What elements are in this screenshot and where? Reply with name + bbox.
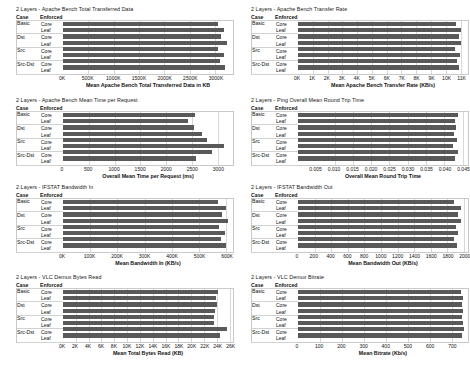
bar xyxy=(298,296,463,300)
table-header: CaseEnforced xyxy=(251,282,469,288)
bar xyxy=(298,315,462,319)
axis-tick-label: 0 xyxy=(61,166,64,172)
axis-tick-label: 2500 xyxy=(187,166,198,172)
case-label: Src-Dst xyxy=(252,152,276,164)
enforced-labels: CoreLeaf xyxy=(41,302,63,314)
bar xyxy=(298,302,462,306)
axis-tick-label: 600K xyxy=(221,253,233,259)
category-group: BasicCoreLeaf xyxy=(17,20,63,34)
enforced-labels: CoreLeaf xyxy=(41,226,63,238)
enforced-label: Leaf xyxy=(41,205,63,211)
bars-plot xyxy=(298,20,469,75)
value-axis-ticks: 0K100K200K300K400K500K600K xyxy=(62,253,234,261)
bar xyxy=(63,237,221,241)
header-case: Case xyxy=(251,105,275,111)
bar xyxy=(298,156,455,160)
case-label: Dst xyxy=(252,125,276,137)
table-header: CaseEnforced xyxy=(16,282,234,288)
case-label: Src xyxy=(17,226,41,238)
enforced-label: Leaf xyxy=(276,232,298,238)
value-axis-ticks: 0K500K1000K1500K2000K2500K3000K xyxy=(62,75,234,83)
bar xyxy=(298,309,463,313)
axis-tick-label: 10K xyxy=(122,343,131,349)
enforced-labels: CoreLeaf xyxy=(276,139,298,151)
case-label: Src-Dst xyxy=(17,61,41,73)
plot-area: BasicCoreLeafDstCoreLeafSrcCoreLeafSrc-D… xyxy=(251,20,469,75)
enforced-labels: CoreLeaf xyxy=(41,125,63,137)
enforced-labels: CoreLeaf xyxy=(41,212,63,224)
axis-tick-label: 2500K xyxy=(183,75,197,81)
category-group: SrcCoreLeaf xyxy=(17,48,63,61)
enforced-labels: CoreLeaf xyxy=(276,226,298,238)
plot-area: BasicCoreLeafDstCoreLeafSrcCoreLeafSrc-D… xyxy=(16,198,234,253)
bar xyxy=(298,132,454,136)
enforced-label: Leaf xyxy=(276,219,298,225)
value-axis-ticks: 0200400600800100012001400160018002000 xyxy=(297,253,469,261)
axis-tick-label: 1000 xyxy=(375,253,386,259)
header-case: Case xyxy=(16,14,40,20)
category-axis: BasicCoreLeafDstCoreLeafSrcCoreLeafSrc-D… xyxy=(17,111,63,166)
plot-area: BasicCoreLeafDstCoreLeafSrcCoreLeafSrc-D… xyxy=(251,198,469,253)
bar xyxy=(63,243,226,247)
enforced-label: Leaf xyxy=(41,245,63,251)
case-label: Dst xyxy=(252,302,276,314)
case-label: Src xyxy=(252,316,276,328)
enforced-labels: CoreLeaf xyxy=(276,48,298,60)
bar-series xyxy=(298,199,468,249)
enforced-label: Leaf xyxy=(41,232,63,238)
plot-area: BasicCoreLeafDstCoreLeafSrcCoreLeafSrc-D… xyxy=(16,20,234,75)
axis-tick-label: 0.015 xyxy=(346,166,359,172)
enforced-labels: CoreLeaf xyxy=(276,212,298,224)
category-group: SrcCoreLeaf xyxy=(17,226,63,239)
axis-tick-label: 0.020 xyxy=(365,166,378,172)
plot-area: BasicCoreLeafDstCoreLeafSrcCoreLeafSrc-D… xyxy=(251,288,469,343)
axis-tick-label: 500 xyxy=(404,343,412,349)
axis-tick-label: 1600 xyxy=(426,253,437,259)
category-group: Src-DstCoreLeaf xyxy=(252,329,298,342)
enforced-labels: CoreLeaf xyxy=(41,152,63,164)
bar xyxy=(63,138,207,142)
axis-tick-label: 6K xyxy=(384,75,390,81)
enforced-labels: CoreLeaf xyxy=(41,112,63,124)
axis-tick-label: 26K xyxy=(226,343,235,349)
case-label: Src-Dst xyxy=(252,61,276,73)
case-label: Src xyxy=(17,48,41,60)
enforced-label: Leaf xyxy=(276,335,298,341)
bars-plot xyxy=(298,111,469,166)
category-axis: BasicCoreLeafDstCoreLeafSrcCoreLeafSrc-D… xyxy=(252,111,298,166)
header-enforced: Enforced xyxy=(275,105,297,111)
case-label: Src xyxy=(17,139,41,151)
axis-tick-label: 16K xyxy=(161,343,170,349)
bar xyxy=(298,243,457,247)
category-group: DstCoreLeaf xyxy=(252,212,298,225)
case-label: Dst xyxy=(252,34,276,46)
enforced-labels: CoreLeaf xyxy=(41,329,63,341)
case-label: Src-Dst xyxy=(17,329,41,341)
header-case: Case xyxy=(16,105,40,111)
case-label: Basic xyxy=(252,112,276,124)
axis-tick-label: 2000 xyxy=(161,166,172,172)
axis-tick-label: 12K xyxy=(135,343,144,349)
bar xyxy=(298,113,458,117)
table-header: CaseEnforced xyxy=(16,105,234,111)
bar xyxy=(298,200,454,204)
axis-tick-label: 700 xyxy=(448,343,456,349)
axis-tick-label: 11K xyxy=(457,75,466,81)
bar-series xyxy=(298,112,468,162)
header-enforced: Enforced xyxy=(40,105,62,111)
bar xyxy=(298,138,457,142)
case-label: Src xyxy=(252,139,276,151)
axis-tick-label: 0.025 xyxy=(383,166,396,172)
enforced-labels: CoreLeaf xyxy=(276,199,298,211)
bar-series xyxy=(63,112,233,162)
bar xyxy=(298,28,461,32)
bar xyxy=(298,219,461,223)
bar-row xyxy=(298,155,468,161)
bar xyxy=(298,231,458,235)
axis-tick-label: 7K xyxy=(399,75,405,81)
enforced-label: Leaf xyxy=(41,54,63,60)
axis-tick-label: 300K xyxy=(139,253,151,259)
case-label: Src xyxy=(252,48,276,60)
axis-tick-label: 9K xyxy=(429,75,435,81)
bar xyxy=(298,321,463,325)
